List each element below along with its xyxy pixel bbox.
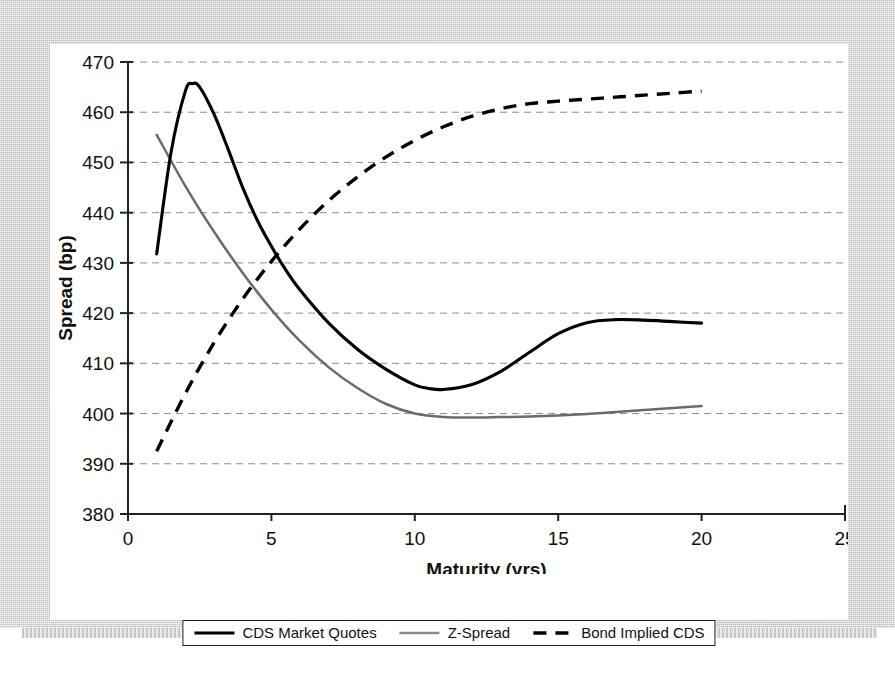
line-chart: 380390400410420430440450460470 051015202… (50, 44, 848, 574)
y-tick-label: 400 (82, 404, 114, 425)
series-bond-implied-cds (157, 91, 702, 451)
x-tick-label: 25 (834, 528, 848, 549)
y-axis-ticks: 380390400410420430440450460470 (82, 52, 133, 525)
legend-swatch-solid-gray-icon (399, 627, 441, 639)
series-cds-market-quotes (157, 83, 702, 390)
legend-swatch-solid-black-icon (193, 627, 235, 639)
figure-page: 380390400410420430440450460470 051015202… (0, 0, 895, 674)
y-tick-label: 380 (82, 504, 114, 525)
legend-swatch-dashed-black-icon (532, 627, 574, 639)
plot-area: 380390400410420430440450460470 051015202… (50, 44, 848, 574)
legend-item-cds-market-quotes: CDS Market Quotes (193, 625, 376, 640)
y-tick-label: 450 (82, 152, 114, 173)
x-tick-label: 10 (404, 528, 425, 549)
y-axis-title: Spread (bp) (55, 235, 76, 341)
x-axis-title: Maturity (yrs) (426, 559, 546, 574)
x-axis-ticks: 0510152025 (123, 514, 848, 549)
legend-item-z-spread: Z-Spread (399, 625, 511, 640)
figure-card: 380390400410420430440450460470 051015202… (50, 44, 848, 620)
y-tick-label: 440 (82, 203, 114, 224)
legend-label-cds-market-quotes: CDS Market Quotes (242, 625, 376, 640)
chart-legend: CDS Market Quotes Z-Spread Bond Implied … (182, 620, 715, 646)
x-tick-label: 0 (123, 528, 134, 549)
y-tick-label: 390 (82, 454, 114, 475)
legend-item-bond-implied-cds: Bond Implied CDS (532, 625, 704, 640)
y-tick-label: 460 (82, 102, 114, 123)
legend-label-z-spread: Z-Spread (448, 625, 511, 640)
x-tick-label: 15 (548, 528, 569, 549)
y-tick-label: 410 (82, 353, 114, 374)
x-tick-label: 20 (691, 528, 712, 549)
y-tick-label: 420 (82, 303, 114, 324)
y-tick-label: 430 (82, 253, 114, 274)
x-tick-label: 5 (266, 528, 277, 549)
legend-label-bond-implied-cds: Bond Implied CDS (581, 625, 704, 640)
y-tick-label: 470 (82, 52, 114, 73)
